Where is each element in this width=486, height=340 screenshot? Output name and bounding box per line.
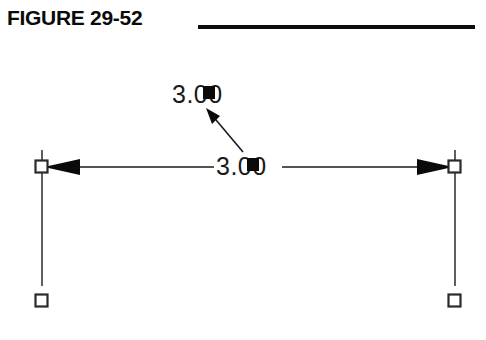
linear-dimension-text[interactable]: 3.00 (216, 154, 267, 179)
grip-top-right[interactable] (449, 161, 461, 173)
grip-bottom-right[interactable] (449, 295, 461, 307)
arrow-left-icon (44, 159, 80, 175)
leader-dimension-text[interactable]: 3.00 (172, 82, 223, 107)
grip-top-left[interactable] (36, 161, 48, 173)
grip-bottom-left[interactable] (36, 295, 48, 307)
figure-canvas: FIGURE 29-52 3.00 3.00 (0, 0, 486, 340)
grip-text-leader[interactable] (203, 86, 215, 99)
grip-text-linear[interactable] (247, 158, 259, 171)
